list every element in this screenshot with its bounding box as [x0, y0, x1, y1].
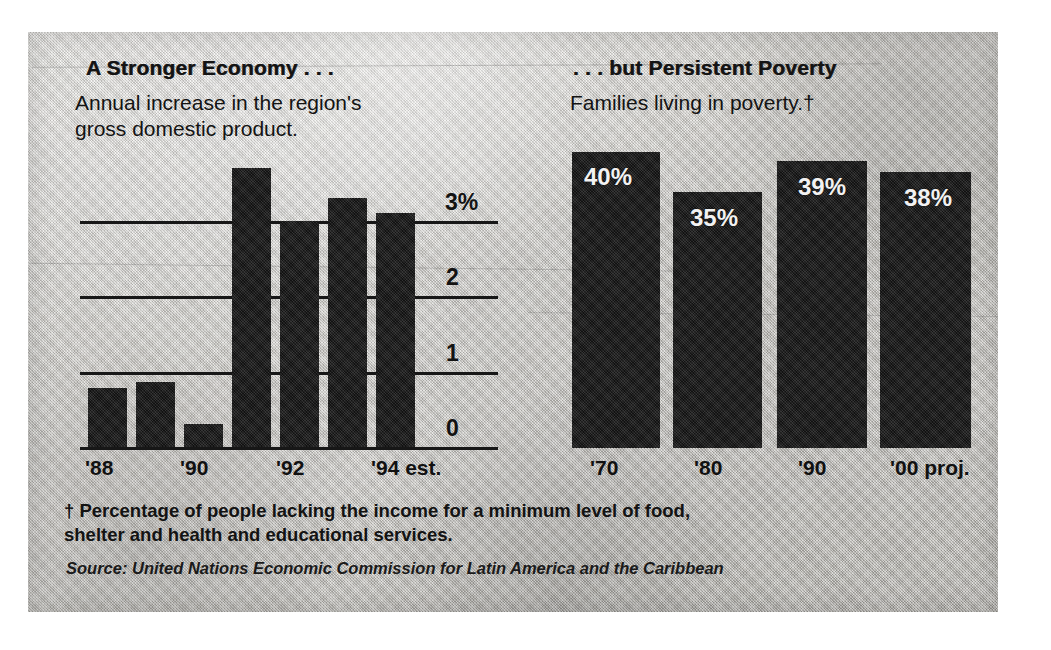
source-line: Source: United Nations Economic Commissi… [66, 559, 724, 578]
bar-value-poverty-80: 35% [690, 204, 738, 232]
bar-value-poverty-00: 38% [904, 184, 952, 212]
x-tick-label-70: '70 [590, 456, 618, 480]
bar-poverty-00 [880, 172, 971, 448]
bar-value-poverty-90: 39% [798, 173, 846, 201]
x-tick-label-90: '90 [798, 456, 826, 480]
x-tick-label-00: '00 proj. [890, 456, 970, 480]
footnote-text: † Percentage of people lacking the incom… [64, 499, 690, 547]
bar-value-poverty-70: 40% [584, 163, 632, 191]
bar-poverty-90 [777, 161, 867, 448]
bar-poverty-70 [572, 152, 660, 448]
x-tick-label-80: '80 [694, 456, 722, 480]
screenshot-page: A Stronger Economy . . . Annual increase… [0, 0, 1051, 650]
poverty-chart: 40% 35% 39% 38% '70 '80 '90 '00 proj. [28, 32, 998, 512]
newspaper-clipping: A Stronger Economy . . . Annual increase… [28, 32, 998, 612]
